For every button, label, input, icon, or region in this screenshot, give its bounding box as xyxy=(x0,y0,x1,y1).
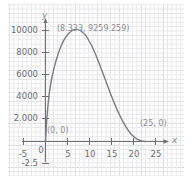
x-tick-label-25: 25 xyxy=(147,150,165,159)
x-tick-label-15: 15 xyxy=(103,150,121,159)
cubic-curve xyxy=(46,29,146,141)
y-tick-label-6000: 6000 xyxy=(4,70,38,79)
annotation-root: (25, 0) xyxy=(140,120,167,128)
x-axis-label: x xyxy=(172,136,177,145)
x-tick-label-5: 5 xyxy=(60,150,76,159)
y-tick-label-2000: 2.000 xyxy=(4,114,38,123)
annotation-maximum: (8.333, 9259.259) xyxy=(57,25,129,33)
x-tick-label-0: 0 xyxy=(34,146,48,155)
y-tick-label-negative: -2.5 xyxy=(4,159,38,168)
y-axis-label: y xyxy=(42,11,47,20)
x-tick-label-neg5: -5 xyxy=(12,150,34,159)
x-tick-label-20: 20 xyxy=(125,150,143,159)
y-tick-label-10000: 10000 xyxy=(4,26,38,35)
y-tick-label-8000: 8000 xyxy=(4,48,38,57)
x-axis-arrowhead xyxy=(164,139,170,143)
x-tick-label-10: 10 xyxy=(81,150,99,159)
annotation-origin: (0, 0) xyxy=(47,127,69,135)
graph-screenshot: y x 10000 8000 6000 4000 2.000 -2.5 -5 0… xyxy=(0,0,191,182)
y-tick-label-4000: 4000 xyxy=(4,92,38,101)
